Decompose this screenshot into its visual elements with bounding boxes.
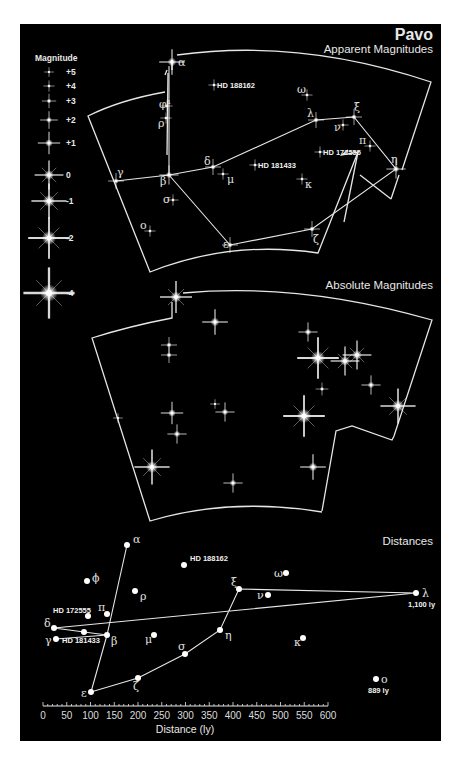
- distance-star-dot: [181, 562, 187, 568]
- distance-star-label: μ: [145, 633, 152, 646]
- legend-star-icon: [28, 217, 70, 259]
- axis-tick-label: 200: [130, 710, 147, 721]
- distance-star-dot: [84, 578, 90, 584]
- axis-tick-label: 350: [201, 710, 218, 721]
- apparent-magnitudes-heading: Apparent Magnitudes: [324, 43, 434, 55]
- distance-star-dot: [53, 636, 59, 642]
- apparent-star-label: HD 181433: [258, 161, 296, 170]
- axis-tick-label: 500: [272, 710, 289, 721]
- axis-tick-label: 250: [153, 710, 170, 721]
- distance-star-dot: [373, 676, 379, 682]
- axis-tick-label: 0: [40, 710, 46, 721]
- absolute-star-icon: [316, 383, 329, 396]
- apparent-star-label: σ: [163, 193, 171, 206]
- apparent-star-label: ω: [297, 83, 306, 96]
- axis-tick-label: 400: [225, 710, 242, 721]
- distance-star-label: ε: [81, 687, 87, 700]
- apparent-star-label: ξ: [354, 101, 360, 114]
- distance-star-dot: [132, 588, 138, 594]
- axis-tick-label: 450: [248, 710, 265, 721]
- legend-label: -4: [66, 288, 74, 298]
- absolute-star-icon: [380, 388, 415, 423]
- distance-note: 1,100 ly: [408, 600, 436, 609]
- legend-label: 0: [66, 170, 71, 180]
- distance-star-label: π: [98, 601, 105, 614]
- distance-star-label: ρ: [140, 590, 146, 603]
- distance-star-label: δ: [44, 617, 51, 630]
- distance-star-label: κ: [294, 636, 301, 649]
- apparent-star-label: ζ: [313, 233, 319, 246]
- legend-label: +3: [66, 96, 76, 106]
- distance-star-label: α: [133, 533, 141, 546]
- apparent-star-label: η: [391, 153, 398, 166]
- legend-label: -2: [66, 233, 74, 243]
- legend-label: -1: [66, 196, 74, 206]
- distance-star-label: ω: [274, 567, 283, 580]
- apparent-star-label: φ¹: [159, 98, 171, 111]
- absolute-star-icon: [161, 347, 177, 363]
- legend-star-icon: [31, 183, 66, 218]
- absolute-star-icon: [167, 424, 186, 443]
- apparent-star-label: ρ: [158, 117, 164, 130]
- constellation-title: Pavo: [395, 26, 433, 43]
- distance-star-label: β: [111, 635, 117, 648]
- absolute-star-icon: [215, 402, 234, 421]
- legend-star-icon: [38, 132, 60, 154]
- distance-star-dot: [283, 570, 289, 576]
- apparent-star-label: π: [359, 134, 366, 147]
- axis-tick-label: 300: [177, 710, 194, 721]
- legend-star-icon: [40, 111, 58, 129]
- distance-star-dot: [81, 629, 87, 635]
- distance-star-label: ν: [257, 589, 264, 602]
- axis-tick-label: 150: [106, 710, 123, 721]
- distance-star-label: ζ: [133, 680, 139, 693]
- apparent-star-label: α: [178, 56, 186, 69]
- legend-star-icon: [43, 80, 54, 91]
- absolute-star-icon: [297, 337, 339, 379]
- absolute-star-icon: [283, 395, 325, 437]
- absolute-star-icon: [298, 322, 317, 341]
- absolute-star-icon: [210, 399, 220, 409]
- pavo-diagram: Pavo Apparent Magnitudes Absolute Magnit…: [0, 0, 456, 763]
- apparent-star-label: δ: [204, 155, 211, 168]
- distance-star-dot: [88, 689, 94, 695]
- legend-label: +1: [66, 138, 76, 148]
- magnitude-legend: Magnitude +5+4+3+2+10-1-2-4: [23, 53, 77, 319]
- distance-star-label: HD 188162: [190, 554, 228, 563]
- absolute-star-icon: [160, 281, 192, 313]
- distance-star-label: γ: [45, 634, 52, 647]
- legend-title: Magnitude: [35, 53, 78, 63]
- axis-tick-label: 50: [61, 710, 73, 721]
- apparent-star-label: μ: [227, 173, 234, 186]
- distance-star-label: ο: [381, 673, 388, 686]
- axis-tick-label: 600: [320, 710, 337, 721]
- legend-label: +4: [66, 81, 76, 91]
- distance-star-dot: [124, 542, 130, 548]
- absolute-star-icon: [134, 449, 169, 484]
- apparent-star-label: β: [160, 175, 166, 188]
- apparent-star-label: HD 188162: [217, 81, 255, 90]
- absolute-star-icon: [202, 309, 228, 335]
- axis-tick-label: 550: [296, 710, 313, 721]
- distance-star-dot: [413, 590, 419, 596]
- absolute-star-field: [113, 281, 415, 493]
- apparent-star-field: αφ¹ργβσοδμεζηλξνπωκHD 188162HD 181433HD …: [108, 49, 406, 253]
- distance-constellation-lines: [54, 545, 416, 692]
- legend-label: +5: [66, 67, 76, 77]
- distance-star-dot: [51, 625, 57, 631]
- axis-label: Distance (ly): [156, 723, 214, 735]
- axis-tick-label: 100: [82, 710, 99, 721]
- legend-star-icon: [42, 94, 56, 108]
- distance-axis: 050100150200250300350400450500550600 Dis…: [40, 702, 337, 735]
- distance-star-label: ξ: [231, 576, 237, 589]
- apparent-star-label: ε: [223, 238, 229, 251]
- absolute-magnitudes-heading: Absolute Magnitudes: [326, 279, 434, 291]
- apparent-star-label: κ: [305, 178, 312, 191]
- legend-label: +2: [66, 115, 76, 125]
- distance-note: 889 ly: [368, 686, 390, 695]
- absolute-star-icon: [113, 413, 123, 423]
- apparent-star-label: ν: [334, 121, 341, 134]
- distance-star-label: ϕ: [92, 572, 100, 585]
- distance-star-label: η: [225, 629, 232, 642]
- absolute-star-icon: [300, 454, 326, 480]
